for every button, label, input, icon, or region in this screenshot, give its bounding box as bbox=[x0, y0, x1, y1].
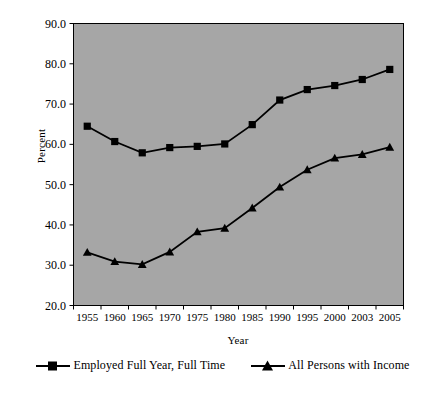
legend-marker-square bbox=[36, 360, 70, 372]
data-point-square bbox=[221, 140, 228, 147]
data-point-square bbox=[359, 76, 366, 83]
data-point-square bbox=[331, 82, 338, 89]
data-point-square bbox=[276, 96, 283, 103]
legend-entry-employed-full-year-full-time: Employed Full Year, Full Time bbox=[36, 358, 225, 373]
data-point-square bbox=[84, 123, 91, 130]
chart-legend: Employed Full Year, Full Time All Person… bbox=[0, 358, 446, 373]
legend-marker-triangle bbox=[251, 360, 285, 372]
chart-figure: Percent Year 90.080.070.060.050.040.030.… bbox=[0, 0, 446, 396]
legend-label: All Persons with Income bbox=[288, 358, 409, 373]
data-point-square bbox=[194, 143, 201, 150]
plot-area bbox=[0, 0, 446, 396]
data-point-square bbox=[249, 121, 256, 128]
legend-entry-all-persons-with-income: All Persons with Income bbox=[251, 358, 409, 373]
data-point-square bbox=[139, 149, 146, 156]
data-point-square bbox=[304, 86, 311, 93]
data-point-square bbox=[166, 144, 173, 151]
legend-label: Employed Full Year, Full Time bbox=[73, 358, 225, 373]
data-point-square bbox=[386, 66, 393, 73]
data-point-square bbox=[111, 138, 118, 145]
